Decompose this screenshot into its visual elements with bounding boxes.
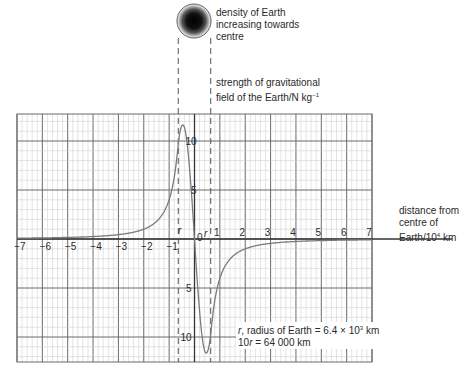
density-line-2: increasing towards (216, 19, 299, 31)
svg-text:−4: −4 (90, 241, 102, 252)
y-axis-unit-exponent: −1 (312, 92, 319, 98)
origin-label: 0 (197, 232, 203, 243)
x-axis-unit-suffix: km (440, 232, 456, 243)
svg-text:7: 7 (366, 227, 372, 238)
svg-text:1: 1 (214, 227, 220, 238)
svg-text:−7: −7 (14, 241, 26, 252)
x-axis-label-line-3: Earth/104 km (399, 229, 459, 244)
svg-text:2: 2 (239, 227, 245, 238)
svg-text:5: 5 (186, 283, 192, 294)
earth-cross-section-icon (177, 4, 211, 38)
svg-text:5: 5 (316, 227, 322, 238)
svg-text:−5: −5 (65, 241, 77, 252)
y-axis-unit: field of the Earth/N kg (216, 92, 312, 103)
radius-note-line-1: r, radius of Earth = 6.4 × 103 km (238, 322, 379, 337)
radius-text: , radius of Earth = 6.4 × 10 (241, 325, 359, 336)
y-axis-label: strength of gravitational field of the E… (216, 77, 320, 104)
y-axis-label-line-2: field of the Earth/N kg−1 (216, 89, 320, 104)
radius-note-line-2: 10r = 64 000 km (238, 337, 379, 349)
density-line-3: centre (216, 31, 299, 43)
svg-text:5: 5 (191, 185, 197, 196)
svg-text:10: 10 (185, 136, 197, 147)
svg-text:4: 4 (290, 227, 296, 238)
svg-text:10: 10 (180, 332, 192, 343)
ten-r-prefix: 10 (238, 337, 249, 348)
svg-text:3: 3 (265, 227, 271, 238)
svg-text:−6: −6 (40, 241, 52, 252)
y-axis-label-line-1: strength of gravitational (216, 77, 320, 89)
svg-text:6: 6 (341, 227, 347, 238)
density-annotation: density of Earth increasing towards cent… (216, 7, 299, 43)
ten-r-value: = 64 000 km (252, 337, 310, 348)
svg-text:−3: −3 (116, 241, 128, 252)
x-axis-label: distance from centre of Earth/104 km (399, 205, 459, 244)
svg-text:−1: −1 (166, 241, 178, 252)
axes (17, 114, 452, 362)
svg-text:−2: −2 (141, 241, 153, 252)
x-axis-label-line-1: distance from (399, 205, 459, 217)
x-axis-unit: Earth/10 (399, 232, 437, 243)
r-label-right: r (204, 228, 207, 239)
radius-annotation: r, radius of Earth = 6.4 × 103 km 10r = … (236, 322, 381, 349)
gravity-chart: −7−6−5−4−3−2−11234567105510 (0, 0, 464, 374)
density-line-1: density of Earth (216, 7, 299, 19)
x-axis-label-line-2: centre of (399, 217, 459, 229)
radius-unit: km (363, 325, 379, 336)
r-label-left: r (178, 225, 181, 236)
